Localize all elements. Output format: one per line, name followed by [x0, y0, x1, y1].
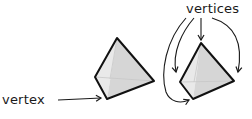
vertex-arrow: [58, 98, 101, 100]
tetrahedron-right: [180, 43, 234, 99]
vertex-label: vertex: [2, 92, 45, 107]
vertices-label: vertices: [186, 1, 239, 16]
tetrahedron-left: [95, 38, 154, 99]
